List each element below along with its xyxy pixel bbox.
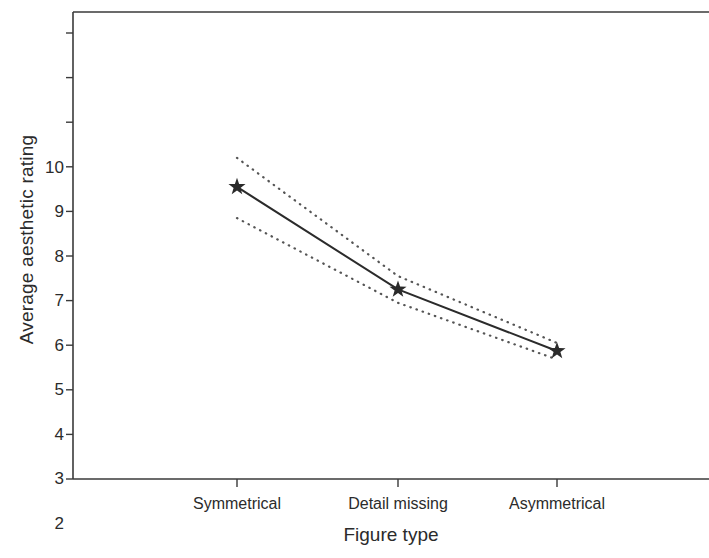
data-point-markers — [228, 178, 565, 358]
x-tick-label-symmetrical: Symmetrical — [193, 495, 281, 513]
y-axis-ticks — [66, 33, 73, 479]
mean-line — [237, 187, 557, 351]
upper-confidence-line — [237, 158, 557, 343]
axis-lines — [73, 12, 709, 479]
y-tick-label-2: 2 — [24, 515, 64, 532]
chart-plot-svg — [0, 0, 709, 558]
x-axis-ticks — [237, 479, 557, 487]
star-marker-icon — [389, 280, 406, 296]
x-tick-label-detail-missing: Detail missing — [348, 495, 448, 513]
x-axis-title: Figure type — [73, 524, 709, 546]
star-marker-icon — [548, 342, 565, 358]
y-axis-title: Average aesthetic rating — [12, 0, 42, 479]
x-tick-label-asymmetrical: Asymmetrical — [509, 495, 605, 513]
chart-figure: 10 9 8 7 6 5 4 3 2 1 0 Symmetrical Detai… — [0, 0, 709, 558]
